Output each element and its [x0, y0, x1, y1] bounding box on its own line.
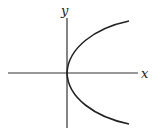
x-axis-label: x [141, 66, 149, 81]
y-axis-label: y [60, 3, 69, 18]
parabola-diagram: y x [0, 0, 156, 139]
